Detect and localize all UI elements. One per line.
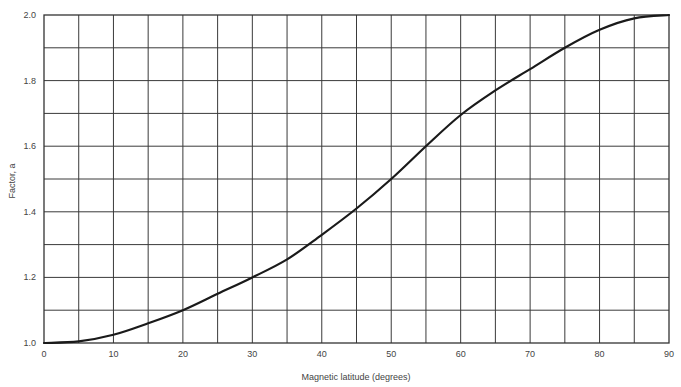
x-axis-title: Magnetic latitude (degrees) — [301, 372, 410, 382]
x-tick-label: 10 — [108, 349, 118, 359]
y-axis-title: Factor, a — [7, 163, 17, 198]
y-tick-label: 1.6 — [23, 141, 36, 151]
x-tick-label: 60 — [456, 349, 466, 359]
y-axis-ticks: 1.01.21.41.61.82.0 — [23, 10, 36, 348]
y-tick-label: 1.8 — [23, 76, 36, 86]
x-tick-label: 40 — [317, 349, 327, 359]
y-tick-label: 1.0 — [23, 338, 36, 348]
x-tick-label: 20 — [178, 349, 188, 359]
x-tick-label: 30 — [247, 349, 257, 359]
x-tick-label: 90 — [664, 349, 674, 359]
x-tick-label: 50 — [386, 349, 396, 359]
x-tick-label: 70 — [525, 349, 535, 359]
x-tick-label: 0 — [41, 349, 46, 359]
y-tick-label: 1.4 — [23, 207, 36, 217]
x-axis-ticks: 0102030405060708090 — [41, 349, 674, 359]
y-tick-label: 1.2 — [23, 272, 36, 282]
y-tick-label: 2.0 — [23, 10, 36, 20]
x-tick-label: 80 — [595, 349, 605, 359]
grid-lines — [44, 15, 669, 343]
line-chart: 1.01.21.41.61.82.0 0102030405060708090 M… — [0, 0, 681, 387]
